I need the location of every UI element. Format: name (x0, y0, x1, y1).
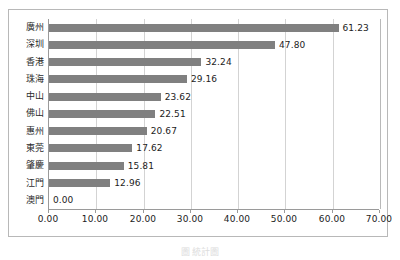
bar-row: 0.00 (49, 192, 379, 209)
bar (49, 179, 110, 187)
bar (49, 144, 132, 152)
bar-value-label: 32.24 (205, 57, 231, 67)
bar (49, 41, 275, 49)
axis-tick-label: 40.00 (224, 214, 250, 224)
axis-tick-label: 20.00 (130, 214, 156, 224)
category-label: 廣州 (9, 19, 47, 36)
figure-caption: 圖 統計圖 (0, 244, 400, 260)
category-label: 佛山 (9, 105, 47, 122)
chart-body: 廣州深圳香港珠海中山佛山惠州東莞肇慶江門澳門 61.2347.8032.2429… (9, 10, 387, 236)
category-label: 澳門 (9, 192, 47, 209)
bar-row: 29.16 (49, 71, 379, 88)
bar-value-label: 29.16 (191, 74, 217, 84)
axis-tick-label: 30.00 (177, 214, 203, 224)
bar-value-label: 47.80 (279, 40, 305, 50)
chart-frame: 廣州深圳香港珠海中山佛山惠州東莞肇慶江門澳門 61.2347.8032.2429… (8, 9, 388, 237)
bar-row: 20.67 (49, 123, 379, 140)
category-label: 深圳 (9, 36, 47, 53)
axis-tick (237, 210, 238, 213)
bar-value-label: 0.00 (53, 195, 73, 205)
bar (49, 75, 187, 83)
category-label: 中山 (9, 88, 47, 105)
bar-row: 23.62 (49, 88, 379, 105)
bar-row: 15.81 (49, 157, 379, 174)
bar-value-label: 15.81 (128, 161, 154, 171)
axis-tick-label: 10.00 (82, 214, 108, 224)
axis-tick (284, 210, 285, 213)
axis-tick (143, 210, 144, 213)
axis-tick-label: 50.00 (271, 214, 297, 224)
bar-value-label: 22.51 (159, 109, 185, 119)
bar (49, 110, 155, 118)
value-axis: 0.0010.0020.0030.0040.0050.0060.0070.00 (48, 210, 379, 224)
bar-value-label: 61.23 (343, 23, 369, 33)
axis-tick-label: 70.00 (366, 214, 392, 224)
bar (49, 58, 201, 66)
gridline (380, 19, 381, 209)
bar-row: 17.62 (49, 140, 379, 157)
bar-row: 22.51 (49, 105, 379, 122)
bar (49, 127, 147, 135)
axis-tick (190, 210, 191, 213)
axis-tick (95, 210, 96, 213)
bar (49, 93, 161, 101)
category-label: 江門 (9, 174, 47, 191)
category-label: 珠海 (9, 71, 47, 88)
bar-value-label: 23.62 (165, 92, 191, 102)
category-label: 肇慶 (9, 157, 47, 174)
bar (49, 24, 339, 32)
bar-row: 61.23 (49, 19, 379, 36)
axis-tick (379, 210, 380, 213)
bar-row: 12.96 (49, 174, 379, 191)
axis-tick (48, 210, 49, 213)
bar-row: 32.24 (49, 54, 379, 71)
axis-tick-label: 60.00 (319, 214, 345, 224)
category-label: 香港 (9, 54, 47, 71)
category-label: 惠州 (9, 123, 47, 140)
axis-tick (332, 210, 333, 213)
plot-area: 61.2347.8032.2429.1623.6222.5120.6717.62… (48, 19, 379, 209)
bar-value-label: 12.96 (114, 178, 140, 188)
bar-value-label: 20.67 (151, 126, 177, 136)
bar-row: 47.80 (49, 36, 379, 53)
bar-series: 61.2347.8032.2429.1623.6222.5120.6717.62… (49, 19, 379, 209)
axis-tick-label: 0.00 (38, 214, 58, 224)
bar (49, 162, 124, 170)
category-axis: 廣州深圳香港珠海中山佛山惠州東莞肇慶江門澳門 (9, 19, 47, 209)
category-label: 東莞 (9, 140, 47, 157)
bar-value-label: 17.62 (136, 143, 162, 153)
